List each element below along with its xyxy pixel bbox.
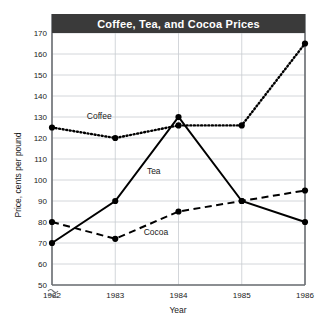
data-point-cocoa [112, 236, 118, 242]
data-point-tea [112, 198, 118, 204]
y-tick-label: 60 [38, 260, 47, 269]
chart-background [0, 0, 321, 327]
y-tick-label: 80 [38, 218, 47, 227]
y-tick-label: 140 [34, 92, 48, 101]
data-point-cocoa [175, 208, 181, 214]
y-axis-title: Price, cents per pound [13, 132, 23, 217]
data-point-cocoa [49, 219, 55, 225]
series-label-coffee: Coffee [87, 111, 112, 121]
data-point-tea [302, 219, 308, 225]
chart-container: 5060708090100110120130140150160170 19821… [0, 0, 321, 327]
x-tick-label: 1984 [170, 291, 188, 300]
y-tick-label: 170 [34, 29, 48, 38]
data-point-tea [175, 114, 181, 120]
chart-title-banner: Coffee, Tea, and Cocoa Prices [52, 14, 305, 33]
y-tick-label: 120 [34, 134, 48, 143]
x-tick-label: 1985 [233, 291, 251, 300]
y-tick-label: 50 [38, 281, 47, 290]
y-tick-label: 110 [34, 155, 47, 164]
data-point-coffee [175, 122, 181, 128]
y-tick-label: 100 [34, 176, 48, 185]
data-point-cocoa [239, 198, 245, 204]
y-tick-label: 150 [34, 71, 48, 80]
x-tick-label: 1983 [106, 291, 124, 300]
series-label-tea: Tea [147, 166, 161, 176]
data-point-tea [49, 240, 55, 246]
y-tick-label: 70 [38, 239, 47, 248]
x-tick-label: 1986 [296, 291, 314, 300]
y-tick-label: 130 [34, 113, 48, 122]
line-chart: 5060708090100110120130140150160170 19821… [0, 0, 321, 327]
chart-title-text: Coffee, Tea, and Cocoa Prices [97, 18, 260, 30]
y-tick-label: 160 [34, 50, 48, 59]
data-point-coffee [302, 40, 308, 46]
series-label-cocoa: Cocoa [144, 227, 169, 237]
data-point-coffee [49, 124, 55, 130]
data-point-cocoa [302, 187, 308, 193]
data-point-coffee [112, 135, 118, 141]
x-axis-title: Year [169, 305, 186, 315]
data-point-coffee [239, 122, 245, 128]
y-tick-label: 90 [38, 197, 47, 206]
